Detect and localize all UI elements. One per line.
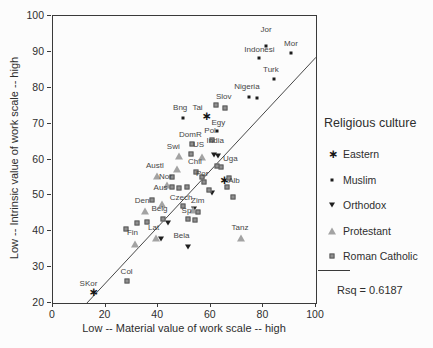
point-catholic	[195, 209, 200, 214]
orthodox-marker-icon	[329, 203, 335, 208]
legend-item-label: Eastern	[343, 148, 379, 160]
y-tick-label: 70	[32, 117, 44, 129]
eastern-marker-icon: ∗	[328, 150, 336, 158]
y-tick	[47, 51, 51, 52]
point-label-nigeria: Nigeria	[234, 82, 259, 91]
y-tick	[47, 159, 51, 160]
x-tick	[105, 303, 106, 307]
point-catholic	[135, 220, 140, 225]
point-sp	[186, 217, 191, 222]
point-label-alb: Alb	[228, 175, 240, 184]
legend-item-label: Orthodox	[343, 199, 386, 211]
catholic-marker-icon	[330, 254, 335, 259]
y-axis-title: Low -- Intrinsic value of work scale -- …	[8, 57, 20, 259]
y-tick-label: 20	[32, 296, 44, 308]
point-catholic	[214, 163, 219, 168]
point-bela	[185, 244, 191, 249]
point-label-bng: Bng	[173, 103, 187, 112]
point-indonesi	[258, 56, 261, 59]
point-catholic	[224, 185, 229, 190]
point-muslim	[255, 96, 258, 99]
point-catholic	[177, 186, 182, 191]
point-label-tanz: Tanz	[232, 223, 249, 232]
point-label-domr: DomR	[179, 130, 202, 139]
point-bng	[182, 117, 185, 120]
point-label-slov: Slov	[216, 92, 232, 101]
point-label-austl: Austl	[146, 161, 164, 170]
point-orthodox	[215, 153, 221, 158]
y-tick-label: 40	[32, 224, 44, 236]
point-label-por: Por	[196, 169, 208, 178]
point-label-col: Col	[121, 267, 133, 276]
point-label-den: Den	[135, 196, 150, 205]
point-nigeria	[247, 95, 250, 98]
point-mor	[290, 51, 293, 54]
point-uga	[219, 164, 224, 169]
point-label-jor: Jor	[260, 25, 271, 34]
rsq-value: Rsq = 0.6187	[337, 284, 403, 296]
y-tick	[47, 15, 51, 16]
y-tick-label: 60	[32, 153, 44, 165]
y-tick-label: 30	[32, 260, 44, 272]
protestant-marker-icon	[328, 227, 336, 234]
point-label-nor: Nor	[159, 172, 172, 181]
point-catholic	[214, 102, 219, 107]
point-label-sp: Sp	[182, 206, 192, 215]
x-tick-label: 100	[306, 308, 324, 320]
point-label-aus: Aus	[154, 182, 168, 191]
point-label-czech: Czech	[170, 193, 193, 202]
y-tick	[47, 123, 51, 124]
point-label-indonesi: Indonesi	[244, 45, 274, 54]
point-orthodox	[165, 220, 171, 225]
legend-item-label: Protestant	[343, 225, 391, 237]
x-tick-label: 40	[151, 308, 163, 320]
legend-title: Religious culture	[324, 116, 416, 130]
x-tick-label: 20	[99, 308, 111, 320]
x-tick	[52, 303, 53, 307]
point-tai: ∗	[202, 112, 210, 120]
x-tick	[315, 303, 316, 307]
legend-item-label: Roman Catholic	[343, 250, 418, 262]
point-por	[202, 180, 207, 185]
point-catholic	[207, 187, 212, 192]
point-label-swi: Swi	[167, 142, 180, 151]
y-tick	[47, 302, 51, 303]
point-label-bela: Bela	[173, 231, 189, 240]
y-tick	[47, 194, 51, 195]
point-swi	[175, 152, 183, 159]
y-tick-label: 100	[26, 9, 44, 21]
fit-line-legend-swatch	[318, 270, 350, 271]
point-label-zim: Zim	[191, 196, 204, 205]
point-label-lat: Lat	[148, 223, 159, 232]
point-catholic	[185, 185, 190, 190]
x-tick	[210, 303, 211, 307]
x-tick-label: 80	[257, 308, 269, 320]
y-tick	[47, 230, 51, 231]
point-label-us: US	[193, 140, 204, 149]
point-tanz	[237, 235, 245, 242]
y-tick-label: 90	[32, 45, 44, 57]
point-den	[141, 207, 149, 214]
scatter-figure: Low -- Intrinsic value of work scale -- …	[0, 0, 433, 348]
point-aus	[170, 184, 175, 189]
point-label-turk: Turk	[263, 65, 279, 74]
y-tick	[47, 266, 51, 267]
point-skor: ∗	[88, 288, 96, 296]
y-tick-label: 80	[32, 81, 44, 93]
point-slov	[222, 105, 227, 110]
x-tick	[157, 303, 158, 307]
point-fin	[131, 240, 139, 247]
point-catholic	[150, 198, 155, 203]
legend-item-label: Muslim	[343, 174, 376, 186]
point-label-belg: Belg	[151, 204, 167, 213]
x-tick	[262, 303, 263, 307]
x-tick-label: 0	[49, 308, 55, 320]
y-tick	[47, 87, 51, 88]
x-tick-label: 60	[204, 308, 216, 320]
point-catholic	[193, 218, 198, 223]
point-label-chil: Chil	[188, 157, 202, 166]
point-belg	[161, 217, 166, 222]
point-label-pol: Pol	[204, 126, 216, 135]
regression-line	[53, 16, 316, 303]
point-label-mor: Mor	[284, 39, 298, 48]
